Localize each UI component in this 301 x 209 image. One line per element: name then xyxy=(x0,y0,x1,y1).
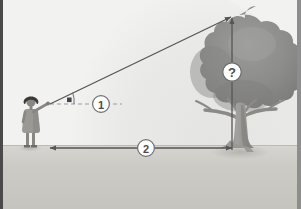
left-border-strip xyxy=(0,0,3,209)
canopy-highlight xyxy=(228,27,276,61)
right-border-strip xyxy=(297,0,301,209)
person-hand xyxy=(46,102,50,106)
label-angle-badge[interactable]: 1 xyxy=(93,96,110,113)
label-angle-text: 1 xyxy=(98,99,104,111)
label-height-text: ? xyxy=(228,65,236,80)
angle-right-mark xyxy=(67,98,72,103)
label-height-badge[interactable]: ? xyxy=(223,63,241,81)
illustration-canvas: 1 2 ? xyxy=(0,0,301,209)
tree-height-diagram: 1 2 ? xyxy=(0,0,301,209)
label-distance-text: 2 xyxy=(143,143,149,155)
label-distance-badge[interactable]: 2 xyxy=(138,140,155,157)
